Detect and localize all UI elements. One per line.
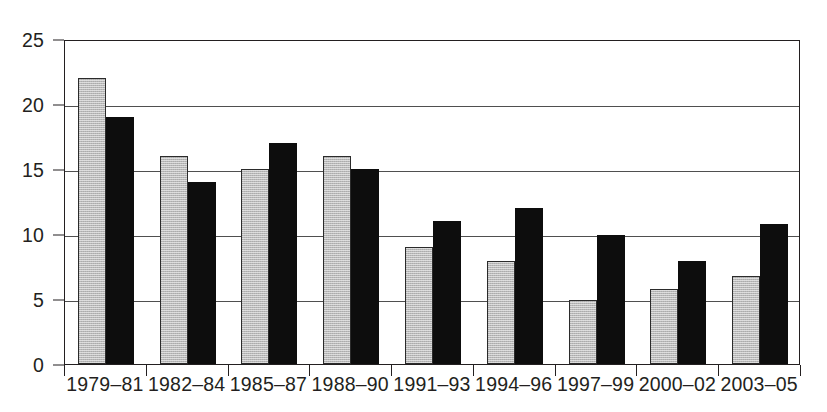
- plot-area: [64, 40, 800, 365]
- x-tick-label: 1994–96: [475, 373, 552, 396]
- bar-series-black-8: [760, 224, 788, 364]
- bar-group: [556, 41, 638, 364]
- x-tick-label: 2000–02: [639, 373, 716, 396]
- bar-group: [474, 41, 556, 364]
- chart-figure: 0510152025 1979–811982–841985–871988–901…: [0, 0, 827, 412]
- y-tick-mark: [53, 300, 64, 301]
- bar-series-black-6: [597, 235, 625, 364]
- bar-group: [392, 41, 474, 364]
- bar-series-gray-0: [78, 78, 106, 364]
- bar-group: [147, 41, 229, 364]
- bar-group: [65, 41, 147, 364]
- bar-series-gray-8: [732, 276, 760, 364]
- x-tick-label: 2003–05: [720, 373, 797, 396]
- x-tick-label: 1991–93: [393, 373, 470, 396]
- bar-series-black-2: [269, 143, 297, 364]
- bar-group: [719, 41, 801, 364]
- y-tick-mark: [53, 365, 64, 366]
- y-tick-label: 25: [22, 29, 44, 52]
- bar-series-gray-6: [569, 300, 597, 364]
- bar-series-gray-4: [405, 247, 433, 364]
- bar-series-black-1: [188, 182, 216, 364]
- y-tick-label: 0: [33, 354, 44, 377]
- bar-series-gray-5: [487, 261, 515, 364]
- bar-series-gray-3: [323, 156, 351, 364]
- x-tick-label: 1997–99: [557, 373, 634, 396]
- bar-series-black-7: [678, 261, 706, 364]
- x-tick-label: 1985–87: [230, 373, 307, 396]
- x-axis: 1979–811982–841985–871988–901991–931994–…: [64, 373, 800, 407]
- bar-group: [229, 41, 311, 364]
- y-tick-label: 10: [22, 224, 44, 247]
- y-tick-mark: [53, 105, 64, 106]
- x-tick-label: 1988–90: [312, 373, 389, 396]
- bar-series-black-4: [433, 221, 461, 364]
- bar-series-gray-7: [650, 289, 678, 364]
- x-tick-mark: [800, 365, 801, 376]
- bar-series-black-0: [106, 117, 134, 364]
- bar-group: [310, 41, 392, 364]
- bar-series-gray-1: [160, 156, 188, 364]
- y-tick-label: 5: [33, 289, 44, 312]
- y-tick-mark: [53, 170, 64, 171]
- y-tick-mark: [53, 235, 64, 236]
- y-axis: 0510152025: [0, 0, 64, 412]
- y-tick-label: 20: [22, 94, 44, 117]
- bar-series-gray-2: [241, 169, 269, 364]
- x-tick-label: 1979–81: [66, 373, 143, 396]
- bar-series-black-5: [515, 208, 543, 364]
- y-tick-mark: [53, 40, 64, 41]
- bar-series-black-3: [351, 169, 379, 364]
- y-tick-label: 15: [22, 159, 44, 182]
- bar-group: [637, 41, 719, 364]
- x-tick-label: 1982–84: [148, 373, 225, 396]
